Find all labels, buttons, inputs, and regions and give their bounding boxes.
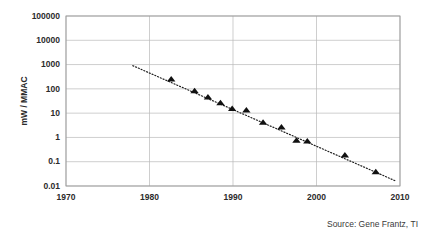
source-note: Source: Gene Frantz, TI	[327, 219, 418, 229]
y-tick-label: 100	[46, 84, 60, 94]
chart-container: 1000001000010001001010.10.01 19701980199…	[0, 0, 428, 245]
y-tick-label: 0.01	[43, 181, 60, 191]
y-tick-label: 10	[51, 108, 61, 118]
x-tick-label: 1990	[224, 192, 243, 202]
x-tick-label: 1980	[140, 192, 159, 202]
y-tick-label: 1000	[41, 59, 60, 69]
y-tick-label: 100000	[32, 11, 61, 21]
chart-background	[0, 0, 428, 245]
y-tick-label: 0.1	[48, 156, 60, 166]
x-tick-label: 1970	[57, 192, 76, 202]
y-tick-label: 10000	[36, 35, 60, 45]
y-axis-title: mW / MMAC	[19, 76, 29, 125]
power-efficiency-scatter-chart: 1000001000010001001010.10.01 19701980199…	[0, 0, 428, 245]
x-tick-label: 2000	[307, 192, 326, 202]
y-tick-label: 1	[55, 132, 60, 142]
x-tick-label: 2010	[391, 192, 410, 202]
